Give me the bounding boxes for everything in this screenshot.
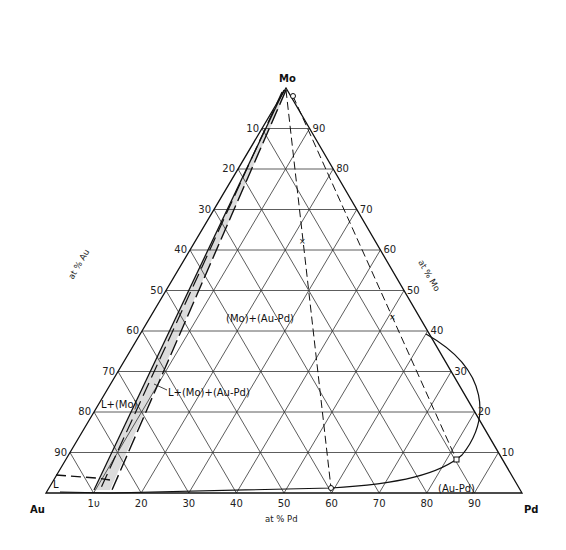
grid-line [262, 129, 474, 494]
region-label-l: L [53, 479, 59, 490]
band-edge-dashed-1 [112, 90, 286, 490]
tick-mo-10: 10 [501, 447, 514, 458]
vertex-label-mo: Mo [279, 73, 296, 84]
tick-pd-40: 40 [230, 498, 243, 509]
tick-au-60: 60 [126, 325, 139, 336]
region-label-l-mo-aupd: L+(Mo)+(Au-Pd) [168, 387, 250, 398]
ternary-diagram: × × Mo Au Pd 1υ2030405060708090102030405… [0, 0, 566, 550]
axis-title-au: at % Au [66, 247, 91, 281]
region-label-mo-aupd: (Mo)+(Au-Pd) [226, 313, 294, 324]
tick-au-50: 50 [150, 285, 163, 296]
vertex-label-pd: Pd [524, 504, 539, 515]
tick-pd-90: 90 [468, 498, 481, 509]
grid-line [214, 210, 379, 494]
grid-line [94, 129, 310, 494]
vertex-label-au: Au [30, 504, 45, 515]
tick-au-90: 90 [54, 447, 67, 458]
three-phase-band [95, 90, 287, 490]
tick-mo-90: 90 [313, 123, 326, 134]
tick-au-70: 70 [102, 366, 115, 377]
tick-pd-1υ: 1υ [88, 498, 100, 509]
tick-au-10: 10 [246, 123, 259, 134]
tick-mo-60: 60 [383, 244, 396, 255]
marker-cross-1: × [299, 237, 306, 246]
axis-title-pd: at % Pd [265, 514, 298, 524]
tick-pd-30: 30 [182, 498, 195, 509]
tick-mo-80: 80 [336, 163, 349, 174]
tick-pd-60: 60 [325, 498, 338, 509]
tick-au-20: 20 [222, 163, 235, 174]
grid-line [70, 453, 94, 494]
tick-pd-70: 70 [373, 498, 386, 509]
tick-mo-70: 70 [360, 204, 373, 215]
region-label-l-mo: L+(Mo) [101, 399, 138, 410]
tick-au-40: 40 [174, 244, 187, 255]
tick-mo-40: 40 [431, 325, 444, 336]
tick-au-30: 30 [198, 204, 211, 215]
marker-cross-2: × [389, 313, 396, 322]
tick-mo-50: 50 [407, 285, 420, 296]
grid-line [284, 291, 404, 494]
tick-pd-20: 20 [135, 498, 148, 509]
axis-title-mo: at % Mo [416, 258, 442, 293]
grid-line [474, 453, 498, 494]
tick-mo-30: 30 [454, 366, 467, 377]
marker-circle-bottom [329, 486, 334, 491]
grid-line [379, 372, 451, 494]
tick-mo-20: 20 [478, 406, 491, 417]
marker-square [454, 457, 459, 462]
tick-au-80: 80 [78, 406, 91, 417]
region-label-aupd: (Au-Pd) [438, 483, 475, 494]
tick-pd-50: 50 [278, 498, 291, 509]
tick-pd-80: 80 [420, 498, 433, 509]
tie-line-1 [286, 90, 331, 488]
marker-circle-top [291, 94, 296, 99]
